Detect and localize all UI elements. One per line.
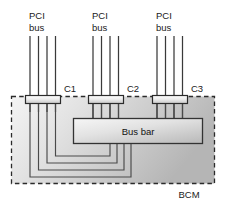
bus-bar-label: Bus bar (122, 126, 155, 137)
bcm-enclosure-label: BCM (178, 189, 199, 200)
pci-bus-2-label-line1: PCI (92, 10, 108, 21)
connector-c1-body (26, 96, 61, 104)
pci-bus-3-label: PCI bus (156, 10, 172, 33)
connector-c3-label: C3 (191, 83, 203, 94)
pci-bus-2-label-line2: bus (92, 22, 108, 33)
pci-bus-2-label: PCI bus (92, 10, 108, 33)
diagram-canvas: Bus bar C1 C2 C3 PCI bus PCI bus PCI bu (0, 0, 226, 215)
connector-c3-body (153, 96, 188, 104)
connector-c2-body (89, 96, 124, 104)
pci-bus-1-label-line1: PCI (29, 10, 45, 21)
pci-bus-3-label-line2: bus (156, 22, 172, 33)
pci-bus-3-label-line1: PCI (156, 10, 172, 21)
pci-bus-1-label-line2: bus (29, 22, 45, 33)
pci-bus-1-label: PCI bus (29, 10, 45, 33)
bus-bar: Bus bar (74, 119, 203, 144)
connector-c1-label: C1 (64, 83, 76, 94)
connector-c2-label: C2 (127, 83, 139, 94)
bcm-bus-bar-diagram: Bus bar C1 C2 C3 PCI bus PCI bus PCI bu (0, 0, 226, 215)
